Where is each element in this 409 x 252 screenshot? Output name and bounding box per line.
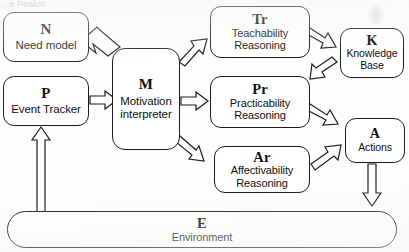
node-environment-label: Environment bbox=[172, 231, 233, 244]
edge-motivation-to-affectivability bbox=[176, 136, 204, 161]
node-event-tracker-label: Event Tracker bbox=[11, 103, 81, 116]
node-knowledge-base: K Knowledge Base bbox=[340, 28, 404, 78]
node-motivation-code: M bbox=[139, 77, 153, 92]
node-affectivability-reasoning: Ar Affectivability Reasoning bbox=[214, 146, 310, 193]
node-motivation-interpreter: M Motivation interpreter bbox=[112, 48, 180, 150]
node-motivation-label-line2: interpreter bbox=[120, 108, 171, 121]
edge-environment-to-event-tracker bbox=[32, 127, 50, 212]
node-practicability-code: Pr bbox=[252, 82, 268, 97]
node-practicability-label-line1: Practicability bbox=[230, 97, 290, 110]
edge-motivation-to-practicability bbox=[181, 92, 208, 110]
node-teachability-reasoning: Tr Teachability Reasoning bbox=[210, 6, 310, 58]
node-environment-code: E bbox=[197, 216, 207, 231]
node-practicability-label-line2: Reasoning bbox=[234, 109, 286, 122]
node-motivation-label-line1: Motivation bbox=[120, 95, 171, 108]
node-affectivability-label-line1: Affectivability bbox=[231, 164, 294, 177]
edge-knowledge-base-to-practicability bbox=[310, 57, 337, 79]
node-actions-code: A bbox=[370, 127, 380, 141]
node-affectivability-code: Ar bbox=[253, 150, 270, 165]
edge-teachability-to-knowledge-base bbox=[307, 28, 336, 48]
edge-motivation-to-teachability bbox=[179, 39, 207, 66]
node-teachability-code: Tr bbox=[252, 12, 267, 27]
node-need-model: N Need model bbox=[3, 12, 89, 62]
node-knowledge-base-code: K bbox=[366, 34, 377, 48]
node-actions: A Actions bbox=[345, 118, 405, 163]
node-event-tracker-code: P bbox=[41, 86, 50, 101]
edge-practicability-to-actions bbox=[307, 104, 338, 125]
node-event-tracker: P Event Tracker bbox=[3, 76, 89, 126]
node-actions-label: Actions bbox=[358, 142, 392, 154]
architecture-diagram: ...e Peakm .blk { fill:#ffffff; stroke:#… bbox=[0, 0, 409, 252]
node-need-model-label: Need model bbox=[15, 39, 76, 52]
node-practicability-reasoning: Pr Practicability Reasoning bbox=[210, 76, 310, 128]
edge-actions-to-environment bbox=[363, 164, 381, 206]
node-knowledge-base-label-line2: Base bbox=[360, 60, 384, 72]
node-teachability-label-line1: Teachability bbox=[232, 27, 288, 40]
node-environment: E Environment bbox=[7, 211, 397, 248]
edge-affectivability-to-actions bbox=[311, 145, 341, 170]
node-teachability-label-line2: Reasoning bbox=[234, 39, 286, 52]
node-need-model-code: N bbox=[40, 22, 51, 37]
node-affectivability-label-line2: Reasoning bbox=[236, 177, 288, 190]
